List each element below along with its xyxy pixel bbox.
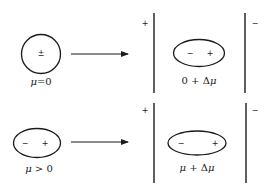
induced-dipole-ellipse	[174, 40, 225, 67]
plate-sign-positive: +	[142, 106, 149, 115]
polar-molecule-ellipse	[14, 129, 61, 158]
label-mu-greater-zero: μ > 0	[25, 163, 53, 174]
plus-symbol: +	[42, 139, 49, 148]
minus-symbol: −	[187, 49, 194, 58]
label-mu-plus-delta-mu: μ + Δμ	[180, 162, 215, 173]
plus-minus-symbol: ±	[38, 49, 45, 58]
row-nonpolar: ± μ=0 + − − + 0 + Δμ	[22, 13, 259, 93]
label-mu-zero: μ=0	[30, 76, 51, 87]
plate-sign-negative: −	[252, 106, 259, 115]
plus-symbol: +	[207, 49, 214, 58]
minus-symbol: −	[22, 139, 29, 148]
plate-sign-positive: +	[142, 19, 149, 28]
label-zero-plus-delta-mu: 0 + Δμ	[182, 75, 217, 86]
minus-symbol: −	[178, 139, 185, 148]
plate-sign-negative: −	[252, 19, 259, 28]
row-polar: − + μ > 0 + − − + μ + Δμ	[14, 103, 259, 183]
polarization-diagram: ± μ=0 + − − + 0 + Δμ − + μ > 0 + − − + μ…	[0, 0, 269, 191]
plus-symbol: +	[212, 139, 219, 148]
